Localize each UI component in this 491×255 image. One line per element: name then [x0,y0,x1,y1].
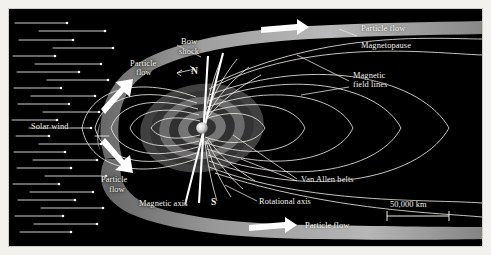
figure-root: Particle flow Magnetopause Magnetic fiel… [0,0,491,255]
scale-bar-layer [9,9,482,246]
magnetosphere-scene: Particle flow Magnetopause Magnetic fiel… [9,9,482,246]
image-frame: Particle flow Magnetopause Magnetic fiel… [9,9,482,246]
